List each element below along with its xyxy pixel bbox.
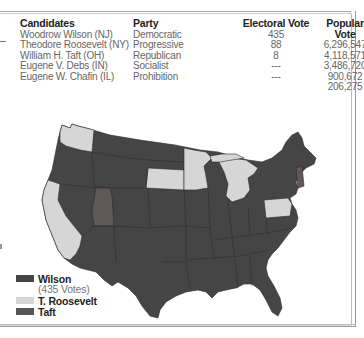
frame-top-inner-line (0, 13, 348, 14)
candidate-cell: Eugene V. Debs (IN) (20, 61, 140, 72)
party-cell: Progressive (133, 40, 203, 51)
margin-tick-top (0, 41, 6, 42)
legend-label-taft: Taft (38, 306, 56, 318)
state-utah (92, 188, 114, 226)
party-cell: Socialist (133, 61, 203, 72)
popular-cell: 3,486,720 (315, 61, 364, 72)
map-legend: Wilson (435 Votes) T. Roosevelt Taft (16, 273, 97, 317)
header-electoral-vote: Electoral Vote (242, 18, 310, 29)
candidate-cell: Theodore Roosevelt (NY) (20, 40, 140, 51)
column-popular-vote: Popular Vote 6,296,547 4,118,571 3,486,7… (315, 18, 364, 93)
wilson-swatch (16, 275, 34, 282)
state-pennsylvania (264, 198, 292, 218)
column-electoral-vote: Electoral Vote 435 88 8 --- --- (242, 18, 310, 82)
popular-cell: 6,296,547 (315, 40, 364, 51)
legend-wilson-votes: (435 Votes) (38, 284, 97, 295)
party-cell: Prohibition (133, 72, 203, 83)
popular-cell: 206,275 (315, 82, 364, 93)
frame-bottom-inner-line (0, 325, 352, 326)
header-popular-vote: Popular Vote (315, 18, 364, 39)
roosevelt-swatch (16, 297, 34, 304)
state-south-dakota (146, 168, 184, 190)
electoral-cell: --- (242, 61, 310, 72)
taft-swatch (16, 308, 34, 315)
legend-item-taft: Taft (16, 306, 97, 317)
legend-item-roosevelt: T. Roosevelt (16, 295, 97, 306)
header-candidates: Candidates (20, 18, 140, 29)
electoral-cell: --- (242, 72, 310, 83)
electoral-cell: 88 (242, 40, 310, 51)
candidate-cell: Eugene W. Chafin (IL) (20, 72, 140, 83)
column-candidates: Candidates Woodrow Wilson (NJ) Theodore … (20, 18, 140, 82)
column-party: Party Democratic Progressive Republican … (133, 18, 203, 82)
header-party: Party (133, 18, 203, 29)
